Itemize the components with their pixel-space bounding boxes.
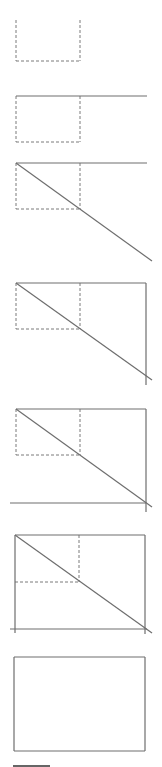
step-2 xyxy=(16,96,147,142)
step-3 xyxy=(16,163,152,261)
step-4 xyxy=(16,283,152,385)
solid-line xyxy=(16,409,152,507)
construction-steps xyxy=(10,20,152,751)
construction-diagram xyxy=(0,0,162,767)
step-6 xyxy=(10,535,152,634)
step-7 xyxy=(14,657,145,751)
solid-line xyxy=(16,163,152,261)
solid-line xyxy=(16,283,152,380)
step-5 xyxy=(10,409,152,512)
solid-line xyxy=(15,535,152,633)
step-1 xyxy=(16,20,80,61)
